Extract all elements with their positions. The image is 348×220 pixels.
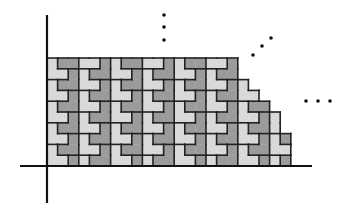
dark-tile-cell [164, 144, 175, 155]
light-tile-cell [121, 155, 132, 166]
light-tile-cell [217, 58, 228, 69]
dark-tile-cell [195, 58, 206, 69]
ellipsis-dot [328, 99, 332, 103]
ellipsis-dot [162, 38, 166, 42]
light-tile-cell [111, 101, 122, 112]
light-tile-cell [111, 134, 122, 145]
dark-tile-cell [227, 90, 238, 101]
light-tile-cell [142, 112, 153, 123]
dark-tile-cell [132, 90, 143, 101]
dark-tile-cell [217, 90, 228, 101]
light-tile-cell [153, 144, 164, 155]
dark-tile-cell [58, 58, 69, 69]
dark-tile-cell [100, 123, 111, 134]
light-tile-cell [174, 90, 185, 101]
light-tile-cell [238, 155, 249, 166]
light-tile-cell [153, 58, 164, 69]
dark-tile-cell [227, 80, 238, 91]
dark-tile-cell [227, 58, 238, 69]
light-tile-cell [111, 112, 122, 123]
light-tile-cell [185, 69, 196, 80]
dark-tile-cell [58, 101, 69, 112]
light-tile-cell [121, 90, 132, 101]
dark-tile-cell [58, 80, 69, 91]
light-tile-cell [79, 101, 90, 112]
dark-tile-cell [153, 134, 164, 145]
dark-tile-cell [89, 112, 100, 123]
dark-tile-cell [100, 144, 111, 155]
light-tile-cell [238, 123, 249, 134]
dark-tile-cell [100, 134, 111, 145]
dark-tile-cell [195, 112, 206, 123]
dark-tile-cell [132, 101, 143, 112]
light-tile-cell [47, 58, 58, 69]
dark-tile-cell [259, 155, 270, 166]
dark-tile-cell [227, 101, 238, 112]
dark-tile-cell [248, 144, 259, 155]
light-tile-cell [111, 69, 122, 80]
dark-tile-cell [259, 123, 270, 134]
dark-tile-cell [68, 144, 79, 155]
dark-tile-cell [227, 123, 238, 134]
light-tile-cell [153, 123, 164, 134]
light-tile-cell [185, 134, 196, 145]
light-tile-cell [142, 58, 153, 69]
light-tile-cell [238, 90, 249, 101]
light-tile-cell [270, 123, 281, 134]
dark-tile-cell [68, 101, 79, 112]
dark-tile-cell [227, 144, 238, 155]
light-tile-cell [58, 90, 69, 101]
dark-tile-cell [195, 90, 206, 101]
light-tile-cell [142, 80, 153, 91]
light-tile-cell [79, 80, 90, 91]
dark-tile-cell [195, 134, 206, 145]
dark-tile-cell [100, 69, 111, 80]
light-tile-cell [47, 101, 58, 112]
dark-tile-cell [132, 134, 143, 145]
light-tile-cell [238, 144, 249, 155]
dark-tile-cell [121, 58, 132, 69]
diagonal-ellipsis [251, 36, 273, 57]
light-tile-cell [217, 123, 228, 134]
light-tile-cell [47, 90, 58, 101]
light-tile-cell [47, 123, 58, 134]
light-tile-cell [153, 101, 164, 112]
light-tile-cell [121, 134, 132, 145]
light-tile-cell [185, 90, 196, 101]
light-tile-cell [248, 155, 259, 166]
light-tile-cell [89, 58, 100, 69]
light-tile-cell [47, 155, 58, 166]
dark-tile-cell [132, 112, 143, 123]
light-tile-cell [206, 112, 217, 123]
light-tile-cell [111, 123, 122, 134]
light-tile-cell [79, 155, 90, 166]
light-tile-cell [270, 112, 281, 123]
light-tile-cell [47, 144, 58, 155]
light-tile-cell [142, 90, 153, 101]
dark-tile-cell [248, 123, 259, 134]
light-tile-cell [47, 134, 58, 145]
light-tile-cell [174, 101, 185, 112]
dark-tile-cell [100, 155, 111, 166]
light-tile-cell [270, 155, 281, 166]
light-tile-cell [238, 112, 249, 123]
dark-tile-cell [195, 155, 206, 166]
dark-tile-cell [68, 155, 79, 166]
dark-tile-cell [227, 69, 238, 80]
dark-tile-cell [121, 101, 132, 112]
light-tile-cell [89, 80, 100, 91]
light-tile-cell [121, 69, 132, 80]
light-tile-cell [47, 80, 58, 91]
light-tile-cell [206, 80, 217, 91]
dark-tile-cell [217, 112, 228, 123]
dark-tile-cell [132, 155, 143, 166]
vertical-ellipsis [162, 13, 166, 42]
dark-tile-cell [132, 80, 143, 91]
light-tile-cell [248, 134, 259, 145]
light-tile-cell [58, 134, 69, 145]
dark-tile-cell [89, 90, 100, 101]
dark-tile-cell [280, 134, 291, 145]
dark-tile-cell [121, 80, 132, 91]
light-tile-cell [206, 123, 217, 134]
light-tile-cell [111, 90, 122, 101]
